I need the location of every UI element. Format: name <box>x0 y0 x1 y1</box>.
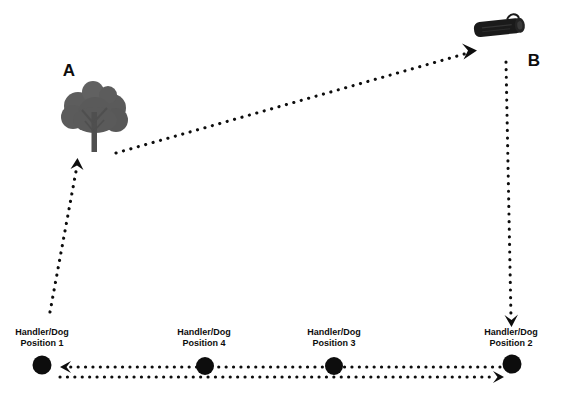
path-tree-to-log-line <box>116 53 468 153</box>
object-label-a: A <box>63 61 75 80</box>
position-1-marker[interactable] <box>33 356 52 375</box>
position-3-label-line1: Handler/Dog <box>307 327 361 337</box>
path-log-to-position2 <box>505 62 519 327</box>
log-icon <box>473 13 526 37</box>
position-3-marker[interactable] <box>325 357 343 375</box>
position-4-label-line1: Handler/Dog <box>177 327 231 337</box>
position-4-label-line2: Position 4 <box>182 338 225 348</box>
position-1-label-line1: Handler/Dog <box>15 327 69 337</box>
position-1-label-line2: Position 1 <box>20 338 63 348</box>
path-log-to-position2-line <box>506 62 511 318</box>
position-3-label-line2: Position 3 <box>312 338 355 348</box>
diagram-canvas: A B Handler/Dog Position 1 Handler/Dog P… <box>0 0 568 399</box>
path-position1-to-tree <box>50 158 84 312</box>
path-position2-to-position1 <box>60 361 500 373</box>
arrowhead-up-to-tree <box>71 158 84 170</box>
position-2-label-line1: Handler/Dog <box>484 327 538 337</box>
position-2-marker[interactable] <box>503 355 522 374</box>
tree-icon <box>61 81 128 152</box>
path-tree-to-log <box>116 44 477 154</box>
position-4-marker[interactable] <box>196 357 214 375</box>
handler-dog-position-4[interactable]: Handler/Dog Position 4 <box>177 327 231 375</box>
arrowhead-to-log <box>462 44 477 60</box>
position-2-label-line2: Position 2 <box>489 338 532 348</box>
path-position1-to-position2 <box>60 371 504 383</box>
arrowhead-down-to-position2 <box>505 315 519 328</box>
arrowhead-right-to-position2 <box>493 371 504 383</box>
path-position1-to-tree-line <box>50 166 77 312</box>
object-label-b: B <box>528 51 540 70</box>
diagram-svg: A B Handler/Dog Position 1 Handler/Dog P… <box>0 0 568 399</box>
